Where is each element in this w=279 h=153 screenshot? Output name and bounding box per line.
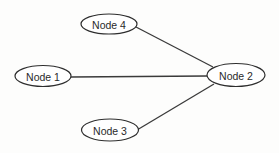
node-2-label: Node 2 (219, 70, 253, 82)
node-1: Node 1 (15, 66, 71, 87)
edge-node3-node2 (137, 84, 214, 130)
edge-node4-node2 (136, 27, 213, 67)
node-4-label: Node 4 (92, 19, 126, 31)
edges (71, 27, 214, 130)
node-3: Node 3 (82, 119, 139, 141)
edge-node1-node2 (71, 76, 207, 77)
nodes: Node 1 Node 2 Node 3 Node 4 (15, 14, 265, 141)
node-2: Node 2 (207, 64, 265, 87)
network-diagram: Node 1 Node 2 Node 3 Node 4 (0, 0, 279, 153)
node-4: Node 4 (81, 14, 137, 34)
node-3-label: Node 3 (93, 125, 127, 137)
node-1-label: Node 1 (26, 71, 60, 83)
